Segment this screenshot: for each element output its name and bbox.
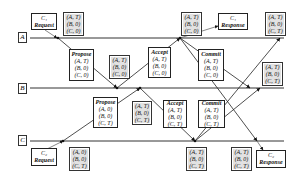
timeline-label-a: A [18, 32, 27, 43]
state-row: (A, T) [266, 14, 285, 21]
state-row: (A, T) [164, 107, 186, 114]
state-row: (C, 0) [110, 71, 129, 78]
state-row: (B, 0) [70, 65, 93, 72]
arrow-c1-request [45, 30, 57, 38]
c2-request-box: C₂ Request [31, 148, 57, 166]
message-title: Propose [70, 51, 93, 58]
message-title: Commit [199, 51, 223, 58]
commit-a-box: Commit (A, T) (B, 0) (C, 0) [198, 49, 224, 81]
state-row: (C, T) [232, 163, 251, 170]
state-row: (C, 0) [64, 28, 83, 35]
state-row: (A, T) [149, 56, 170, 63]
state-row: (B, 0) [232, 156, 251, 163]
c1-response-label: Response [219, 22, 247, 29]
state-row: (B, 0) [94, 113, 117, 120]
state-b-final: (A, T) (B, 0) (C, T) [263, 63, 282, 85]
state-row: (C, 0) [199, 72, 223, 79]
state-b-after-propose-c: (A, T) (B, 0) (C, T) [133, 102, 151, 124]
state-c-initial: (A, 0) (B, 0) (C, T) [70, 148, 89, 170]
c2-response-box: C₂ Response [256, 150, 286, 168]
state-row: (C, T) [187, 163, 206, 170]
state-a-initial: (A, T) (B, 0) (C, 0) [64, 13, 83, 35]
c1-request-label: Request [32, 22, 56, 29]
message-title: Accept [164, 100, 186, 107]
state-row: (B, 0) [263, 71, 282, 78]
state-row: (B, 0) [266, 21, 285, 28]
state-row: (A, T) [70, 58, 93, 65]
state-row: (B, 0) [133, 110, 151, 117]
state-b-after-propose-a: (A, T) (B, 0) (C, 0) [110, 56, 129, 78]
message-title: Commit [199, 100, 224, 107]
propose-c-box: Propose (A, 0) (B, 0) (C, T) [93, 97, 118, 128]
state-row: (A, T) [263, 64, 282, 71]
state-row: (C, 0) [182, 28, 201, 35]
state-row: (C, T) [263, 78, 282, 85]
accept-c-box: Accept (A, T) (B, 0) (C, T) [163, 100, 187, 128]
c1-request-box: C₁ Request [31, 13, 57, 30]
state-row: (B, 0) [199, 114, 224, 121]
c1-response-box: C₁ Response [218, 13, 248, 30]
state-row: (B, 0) [64, 21, 83, 28]
state-row: (C, T) [133, 117, 151, 124]
state-row: (B, 0) [149, 63, 170, 70]
state-row: (A, T) [232, 149, 251, 156]
state-row: (B, 0) [199, 65, 223, 72]
state-row: (A, 0) [94, 106, 117, 113]
state-a-after-accept: (A, T) (B, 0) (C, 0) [182, 13, 201, 35]
c2-request-client: C₂ [32, 150, 56, 157]
state-row: (C, 0) [70, 72, 93, 79]
commit-c-box: Commit (A, T) (B, 0) (C, T) [198, 100, 225, 128]
accept-a-box: Accept (A, T) (B, 0) (C, 0) [148, 47, 171, 78]
state-row: (A, T) [182, 14, 201, 21]
state-c-final: (A, T) (B, 0) (C, T) [232, 148, 251, 170]
message-title: Propose [94, 99, 117, 106]
state-c-after-accept: (A, T) (B, 0) (C, T) [187, 148, 206, 170]
state-row: (B, 0) [70, 156, 89, 163]
message-title: Accept [149, 49, 170, 56]
c1-response-client: C₁ [219, 15, 247, 22]
state-row: (B, 0) [110, 64, 129, 71]
state-row: (B, 0) [164, 114, 186, 121]
state-row: (A, T) [199, 58, 223, 65]
timeline-label-c: C [18, 135, 27, 146]
state-a-final: (A, T) (B, 0) (C, T) [266, 13, 285, 35]
c2-request-label: Request [32, 157, 56, 164]
state-row: (A, T) [187, 149, 206, 156]
c2-response-client: C₂ [257, 152, 285, 159]
state-row: (C, 0) [149, 70, 170, 77]
c1-request-client: C₁ [32, 15, 56, 22]
state-row: (B, 0) [187, 156, 206, 163]
propose-a-box: Propose (A, T) (B, 0) (C, 0) [69, 49, 94, 81]
state-row: (A, T) [199, 107, 224, 114]
state-row: (C, T) [70, 163, 89, 170]
state-row: (C, T) [199, 121, 224, 128]
timeline-label-b: B [18, 83, 27, 94]
state-row: (C, T) [266, 28, 285, 35]
arrow-c2-response [257, 141, 263, 150]
state-row: (B, 0) [182, 21, 201, 28]
state-row: (A, 0) [70, 149, 89, 156]
state-row: (C, T) [164, 121, 186, 128]
state-row: (A, T) [133, 103, 151, 110]
state-row: (A, T) [64, 14, 83, 21]
state-row: (C, T) [94, 120, 117, 127]
state-row: (A, T) [110, 57, 129, 64]
c2-response-label: Response [257, 159, 285, 166]
